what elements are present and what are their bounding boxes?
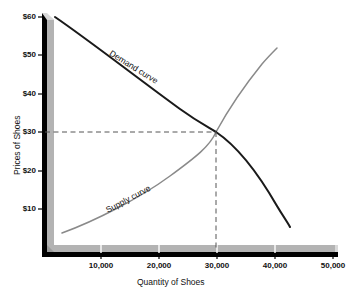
x-tick-marks-outer <box>101 257 333 259</box>
xtick-label-30000: 30,000 <box>192 261 242 270</box>
ytick-label-40: $40 <box>8 89 36 98</box>
xtick-label-40000: 40,000 <box>250 261 300 270</box>
x-axis-face <box>47 245 335 252</box>
y-axis-bar <box>42 13 47 253</box>
demand-curve-path <box>55 17 290 227</box>
y-axis-face <box>47 14 54 252</box>
x-axis-bar <box>42 252 338 257</box>
xtick-label-50000: 50,000 <box>308 261 348 270</box>
ytick-label-10: $10 <box>8 204 36 213</box>
axis-right-cap <box>335 245 338 252</box>
chart-canvas <box>0 0 348 295</box>
ytick-label-60: $60 <box>8 12 36 21</box>
supply-curve-path <box>62 48 277 233</box>
y-axis-title: Prices of Shoes <box>12 115 22 175</box>
supply-demand-chart: $60 $50 $40 $30 $20 $10 10,000 20,000 30… <box>0 0 348 295</box>
xtick-label-20000: 20,000 <box>134 261 184 270</box>
xtick-label-10000: 10,000 <box>76 261 126 270</box>
ytick-label-50: $50 <box>8 50 36 59</box>
x-axis-title: Quantity of Shoes <box>137 277 205 287</box>
